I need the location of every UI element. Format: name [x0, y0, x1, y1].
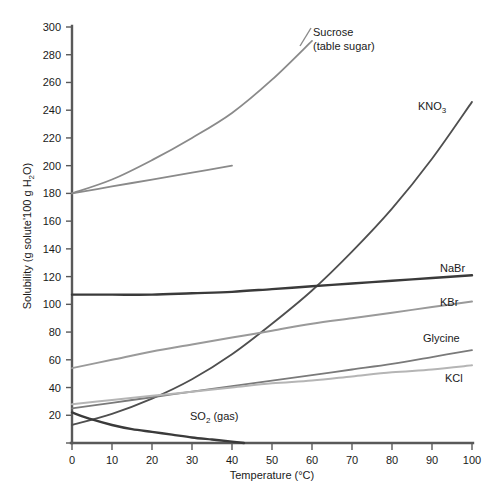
kbr-series-label: KBr — [440, 296, 459, 308]
y-tick-label: 300 — [43, 21, 61, 33]
x-tick-label: 40 — [226, 454, 238, 466]
y-tick-label: 40 — [49, 382, 61, 394]
x-tick-label: 60 — [306, 454, 318, 466]
y-tick-label: 180 — [43, 187, 61, 199]
x-tick-label: 80 — [386, 454, 398, 466]
svg-text:(table sugar): (table sugar) — [313, 40, 375, 52]
x-axis-title: Temperature (°C) — [230, 469, 314, 481]
y-tick-label: 100 — [43, 298, 61, 310]
solubility-chart-figure: 2040608010012014016018020022024026028030… — [0, 0, 492, 497]
y-tick-label: 140 — [43, 243, 61, 255]
y-tick-label: 160 — [43, 215, 61, 227]
y-tick-label: 200 — [43, 160, 61, 172]
y-tick-label: 120 — [43, 271, 61, 283]
x-tick-label: 20 — [146, 454, 158, 466]
x-tick-label: 0 — [69, 454, 75, 466]
x-tick-label: 70 — [346, 454, 358, 466]
solubility-line-chart: 2040608010012014016018020022024026028030… — [0, 0, 492, 497]
x-tick-label: 10 — [106, 454, 118, 466]
x-tick-label: 90 — [426, 454, 438, 466]
x-tick-label: 50 — [266, 454, 278, 466]
y-tick-label: 20 — [49, 409, 61, 421]
kcl-series-label: KCl — [445, 372, 463, 384]
nabr-series-label: NaBr — [440, 262, 465, 274]
y-tick-label: 220 — [43, 132, 61, 144]
y-tick-label: 280 — [43, 49, 61, 61]
svg-text:Temperature (°C): Temperature (°C) — [230, 469, 314, 481]
x-tick-label: 30 — [186, 454, 198, 466]
x-tick-label: 100 — [463, 454, 481, 466]
svg-text:Sucrose: Sucrose — [313, 26, 353, 38]
glycine-series-label: Glycine — [423, 332, 460, 344]
y-tick-label: 60 — [49, 354, 61, 366]
y-tick-label: 240 — [43, 104, 61, 116]
y-tick-label: 260 — [43, 76, 61, 88]
y-tick-label: 80 — [49, 326, 61, 338]
chart-background — [0, 0, 492, 497]
